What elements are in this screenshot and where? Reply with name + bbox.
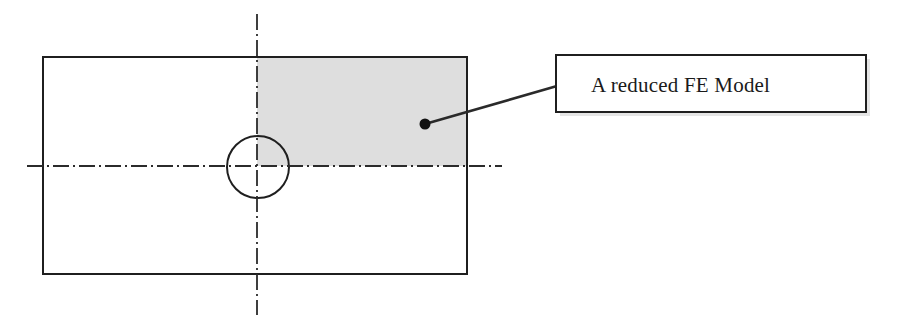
reduced-fe-model-region (257, 58, 467, 166)
figure-canvas: A reduced FE Model (0, 0, 902, 325)
diagram-svg: A reduced FE Model (0, 0, 902, 325)
annotation-dot (420, 119, 431, 130)
annotation-callout-label: A reduced FE Model (591, 73, 770, 97)
